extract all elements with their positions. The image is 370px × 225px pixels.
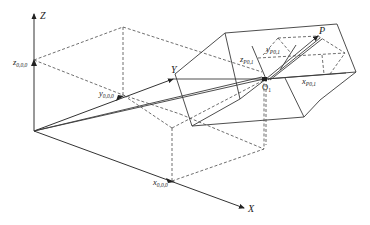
labels: Z Y X z0,0,0 y0,0,0 x0,0,0 O1 P zP0,1 yP… <box>12 10 325 214</box>
local-box <box>175 24 356 126</box>
y-origin-label: y0,0,0 <box>98 88 114 99</box>
x-axis <box>34 131 244 208</box>
x-p01-label: xP0,1 <box>301 76 316 87</box>
y-axis-label: Y <box>171 64 178 75</box>
x-axis-label: X <box>247 203 255 214</box>
y-p01-label: yP0,1 <box>265 44 280 55</box>
o1-marker <box>262 77 267 81</box>
z-origin-label: z0,0,0 <box>12 57 28 68</box>
x-origin-label: x0,0,0 <box>152 177 168 188</box>
o1-label: O1 <box>262 82 271 93</box>
coordinate-diagram: Z Y X z0,0,0 y0,0,0 x0,0,0 O1 P zP0,1 yP… <box>0 0 370 225</box>
z-p01-label: zP0,1 <box>239 54 254 65</box>
z-axis-label: Z <box>40 10 46 21</box>
p-label: P <box>318 25 325 36</box>
